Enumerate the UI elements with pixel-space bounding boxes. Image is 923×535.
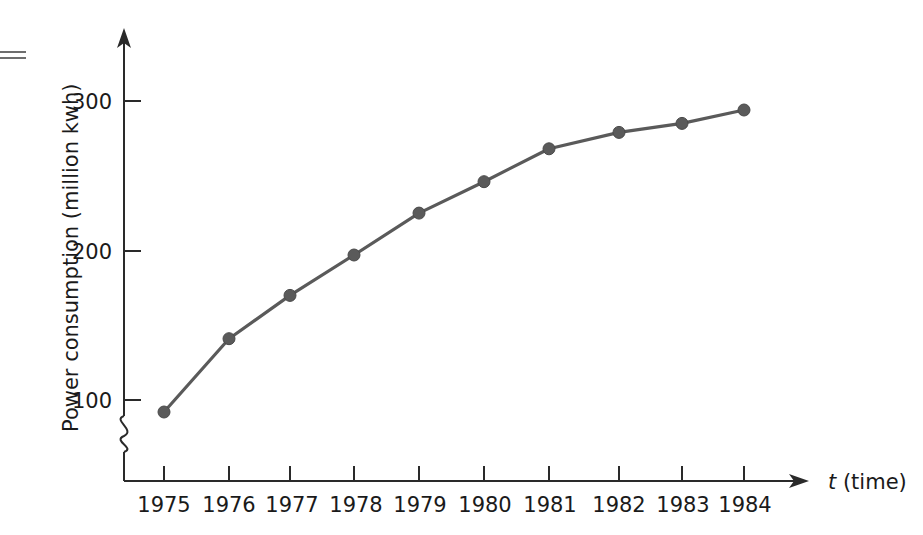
- y-tick-marks: [124, 101, 141, 400]
- x-axis-title: t (time): [828, 470, 907, 494]
- data-point-1978: [348, 249, 360, 261]
- data-point-1979: [413, 207, 425, 219]
- data-point-1975: [158, 406, 170, 418]
- series-markers: [158, 104, 750, 418]
- x-tick-label-1978: 1978: [329, 493, 382, 517]
- x-tick-label-1981: 1981: [523, 493, 576, 517]
- x-axis-title-rest: (time): [836, 470, 907, 494]
- data-point-1976: [223, 333, 235, 345]
- x-tick-label-1977: 1977: [265, 493, 318, 517]
- data-point-1983: [676, 117, 688, 129]
- data-point-1981: [543, 143, 555, 155]
- page-edge-artifact: [0, 52, 26, 58]
- line-chart-canvas: 300 200 100 Power consumption (million k…: [0, 0, 923, 535]
- x-tick-label-1983: 1983: [656, 493, 709, 517]
- x-axis: [124, 474, 809, 488]
- data-point-1980: [478, 176, 490, 188]
- y-axis-title: Power consumption (million kwh): [59, 84, 83, 432]
- series-line-power-consumption: [164, 110, 744, 412]
- data-point-1977: [284, 289, 296, 301]
- data-series-group: [158, 104, 750, 418]
- data-point-1982: [613, 126, 625, 138]
- x-tick-label-1976: 1976: [202, 493, 255, 517]
- x-tick-label-1975: 1975: [137, 493, 190, 517]
- chart-figure: 300 200 100 Power consumption (million k…: [0, 0, 923, 535]
- data-point-1984: [738, 104, 750, 116]
- axis-break-icon: [121, 416, 128, 452]
- y-axis: [117, 28, 131, 481]
- x-tick-label-1982: 1982: [592, 493, 645, 517]
- x-tick-label-1984: 1984: [718, 493, 771, 517]
- x-tick-label-1980: 1980: [458, 493, 511, 517]
- x-tick-marks: [164, 466, 744, 481]
- x-tick-label-1979: 1979: [393, 493, 446, 517]
